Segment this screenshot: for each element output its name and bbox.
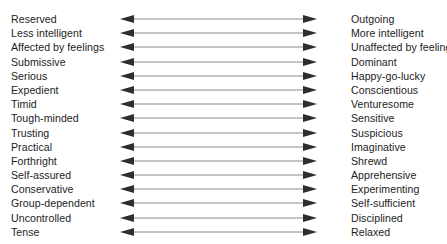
trait-label-left: Expedient	[0, 83, 117, 97]
trait-label-left: Tense	[0, 225, 117, 239]
trait-row-9: Trusting Suspicious	[0, 126, 447, 140]
trait-row-2: Less intelligent More intelligent	[0, 26, 447, 40]
trait-scale-arrow	[117, 140, 320, 154]
trait-scale-arrow	[117, 69, 320, 83]
trait-row-8: Tough-minded Sensitive	[0, 111, 447, 125]
trait-label-right: Venturesome	[320, 97, 436, 111]
trait-label-right: Disciplined	[320, 211, 436, 225]
trait-row-7: Timid Venturesome	[0, 97, 447, 111]
double-headed-arrow-icon	[117, 26, 320, 40]
trait-label-right: Imaginative	[320, 140, 436, 154]
trait-label-left: Less intelligent	[0, 26, 117, 40]
trait-label-left: Tough-minded	[0, 111, 117, 125]
trait-scale-arrow	[117, 111, 320, 125]
trait-row-3: Affected by feelings Unaffected by feeli…	[0, 40, 447, 54]
trait-label-left: Reserved	[0, 12, 117, 26]
double-headed-arrow-icon	[117, 154, 320, 168]
double-headed-arrow-icon	[117, 168, 320, 182]
trait-label-left: Submissive	[0, 55, 117, 69]
trait-row-4: Submissive Dominant	[0, 55, 447, 69]
double-headed-arrow-icon	[117, 182, 320, 196]
trait-row-6: Expedient Conscientious	[0, 83, 447, 97]
trait-label-right: Shrewd	[320, 154, 436, 168]
double-headed-arrow-icon	[117, 140, 320, 154]
trait-scale-arrow	[117, 182, 320, 196]
double-headed-arrow-icon	[117, 40, 320, 54]
double-headed-arrow-icon	[117, 196, 320, 210]
trait-row-14: Group-dependent Self-sufficient	[0, 196, 447, 210]
trait-row-12: Self-assured Apprehensive	[0, 168, 447, 182]
trait-label-left: Timid	[0, 97, 117, 111]
trait-scale-arrow	[117, 26, 320, 40]
trait-scale-arrow	[117, 196, 320, 210]
trait-label-left: Forthright	[0, 154, 117, 168]
trait-row-15: Uncontrolled Disciplined	[0, 211, 447, 225]
trait-label-left: Trusting	[0, 126, 117, 140]
trait-scale-arrow	[117, 55, 320, 69]
trait-row-11: Forthright Shrewd	[0, 154, 447, 168]
double-headed-arrow-icon	[117, 111, 320, 125]
double-headed-arrow-icon	[117, 225, 320, 239]
trait-row-1: Reserved Outgoing	[0, 12, 447, 26]
trait-label-right: Experimenting	[320, 182, 436, 196]
trait-label-left: Group-dependent	[0, 196, 117, 210]
trait-scale-arrow	[117, 12, 320, 26]
trait-scale-arrow	[117, 154, 320, 168]
trait-label-right: Conscientious	[320, 83, 436, 97]
trait-label-left: Self-assured	[0, 168, 117, 182]
trait-label-left: Practical	[0, 140, 117, 154]
trait-label-left: Uncontrolled	[0, 211, 117, 225]
trait-row-5: Serious Happy-go-lucky	[0, 69, 447, 83]
trait-label-right: Self-sufficient	[320, 196, 436, 210]
trait-scale-arrow	[117, 126, 320, 140]
double-headed-arrow-icon	[117, 12, 320, 26]
trait-label-left: Conservative	[0, 182, 117, 196]
trait-row-13: Conservative Experimenting	[0, 182, 447, 196]
trait-label-right: Sensitive	[320, 111, 436, 125]
trait-label-right: More intelligent	[320, 26, 436, 40]
trait-label-right: Happy-go-lucky	[320, 69, 436, 83]
trait-label-right: Unaffected by feelings	[320, 40, 436, 54]
trait-scale-arrow	[117, 83, 320, 97]
trait-label-left: Serious	[0, 69, 117, 83]
double-headed-arrow-icon	[117, 83, 320, 97]
trait-scale-arrow	[117, 168, 320, 182]
double-headed-arrow-icon	[117, 97, 320, 111]
double-headed-arrow-icon	[117, 126, 320, 140]
trait-scale-arrow	[117, 225, 320, 239]
trait-label-right: Suspicious	[320, 126, 436, 140]
trait-label-right: Outgoing	[320, 12, 436, 26]
trait-row-16: Tense Relaxed	[0, 225, 447, 239]
trait-scale-arrow	[117, 40, 320, 54]
double-headed-arrow-icon	[117, 69, 320, 83]
trait-scale-arrow	[117, 211, 320, 225]
trait-row-10: Practical Imaginative	[0, 140, 447, 154]
trait-label-right: Relaxed	[320, 225, 436, 239]
bipolar-trait-chart: Reserved Outgoing Less intelligent More …	[0, 0, 447, 244]
trait-label-right: Dominant	[320, 55, 436, 69]
trait-label-left: Affected by feelings	[0, 40, 117, 54]
trait-scale-arrow	[117, 97, 320, 111]
trait-label-right: Apprehensive	[320, 168, 436, 182]
double-headed-arrow-icon	[117, 211, 320, 225]
double-headed-arrow-icon	[117, 55, 320, 69]
